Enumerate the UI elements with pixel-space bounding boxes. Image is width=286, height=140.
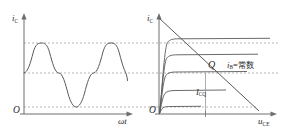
ib-curve-1 [160,106,202,113]
left-x-axis-arrow [127,111,134,116]
right-x-axis-arrow [271,111,278,116]
figure-container: iC O ωt iC O uCE Q iB=常数 ICQ [0,0,286,140]
right-x-axis-label: uCE [258,117,270,126]
left-y-axis-arrow [21,13,26,20]
right-panel-graph [155,13,277,117]
right-y-axis-label: iC [147,14,153,23]
ib-curve-5 [160,38,271,113]
icq-label: ICQ [196,88,206,97]
figure-svg [0,0,286,140]
right-origin-label: O [149,106,156,116]
collector-current-waveform [24,43,128,107]
q-point-label: Q [208,60,215,70]
left-origin-label: O [13,106,20,116]
left-x-axis-label: ωt [118,117,127,126]
left-y-axis-label: iC [12,14,18,23]
ib-curve-2 [160,90,227,114]
ib-constant-label: iB=常数 [227,61,254,70]
